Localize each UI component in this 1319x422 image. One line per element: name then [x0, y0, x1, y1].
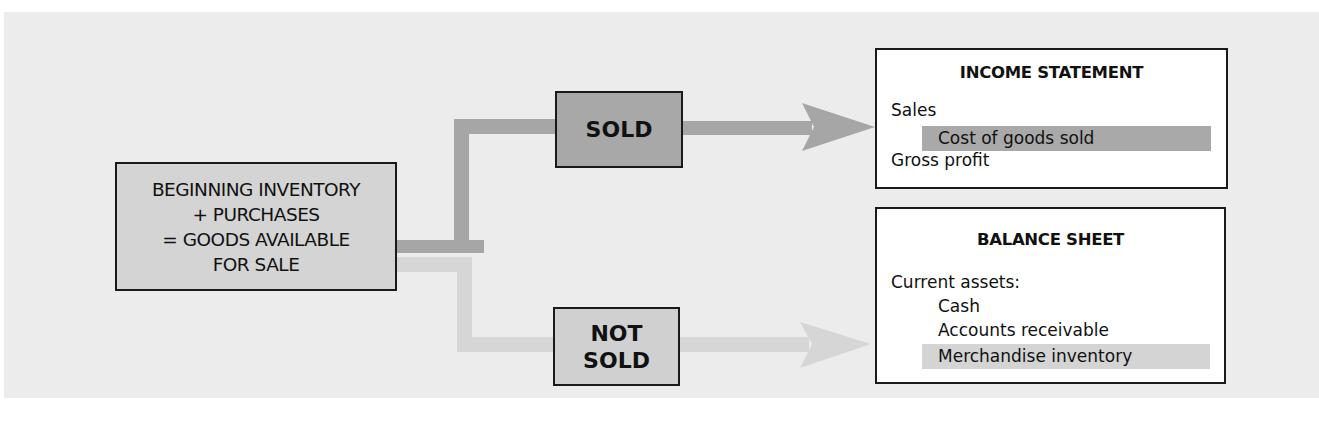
balance-sheet-title: BALANCE SHEET: [877, 230, 1224, 249]
goods-available-box: BEGINNING INVENTORY + PURCHASES = GOODS …: [115, 162, 397, 291]
not-sold-label-line-2: SOLD: [583, 347, 650, 374]
income-statement-box: INCOME STATEMENT Sales Cost of goods sol…: [875, 48, 1228, 189]
balance-line-current-assets: Current assets:: [891, 272, 1020, 292]
balance-line-merchandise-inventory: Merchandise inventory: [938, 346, 1132, 366]
sold-label: SOLD: [586, 117, 653, 142]
sold-box: SOLD: [555, 91, 683, 168]
source-line-2: + PURCHASES: [192, 202, 319, 227]
balance-sheet-box: BALANCE SHEET Current assets: Cash Accou…: [875, 207, 1226, 384]
income-statement-title: INCOME STATEMENT: [877, 63, 1226, 82]
source-line-3: = GOODS AVAILABLE: [162, 227, 349, 252]
income-line-sales: Sales: [891, 100, 936, 120]
balance-line-cash: Cash: [938, 296, 980, 316]
source-line-1: BEGINNING INVENTORY: [152, 177, 360, 202]
not-sold-box: NOT SOLD: [553, 307, 680, 386]
balance-line-accounts-receivable: Accounts receivable: [938, 320, 1109, 340]
balance-line-inventory-highlight: Merchandise inventory: [922, 344, 1210, 369]
not-sold-label-line-1: NOT: [590, 320, 642, 347]
income-line-cogs-highlight: Cost of goods sold: [922, 126, 1211, 151]
source-line-4: FOR SALE: [213, 252, 300, 277]
income-line-gross-profit: Gross profit: [891, 150, 990, 170]
income-line-cogs: Cost of goods sold: [938, 128, 1094, 148]
